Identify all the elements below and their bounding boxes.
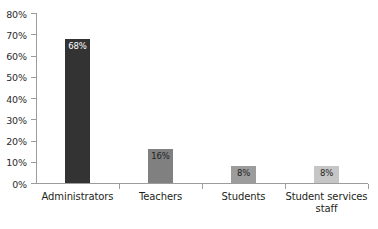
y-axis-tick: 60% (31, 56, 36, 57)
bar-value-label: 16% (148, 152, 173, 161)
bar: 8% (314, 166, 339, 183)
y-axis-tick-label: 50% (6, 72, 27, 83)
y-axis-tick-label: 40% (6, 93, 27, 104)
y-axis-tick-label: 60% (6, 51, 27, 62)
bar-value-label: 8% (231, 169, 256, 178)
y-axis-line (36, 13, 37, 183)
x-axis-tick (119, 184, 120, 189)
bar: 8% (231, 166, 256, 183)
bar-value-label: 68% (65, 42, 90, 51)
y-axis-tick: 20% (31, 141, 36, 142)
y-axis-tick-label: 80% (6, 8, 27, 19)
y-axis-tick-label: 10% (6, 157, 27, 168)
y-axis-tick-label: 20% (6, 136, 27, 147)
x-axis-tick (285, 184, 286, 189)
y-axis-tick: 40% (31, 98, 36, 99)
y-axis-tick: 70% (31, 34, 36, 35)
bar-value-label: 8% (314, 169, 339, 178)
x-axis-category-label: Student services staff (285, 191, 368, 214)
bar: 68% (65, 39, 90, 184)
x-axis-category-label: Administrators (36, 191, 119, 203)
x-axis-category-label: Teachers (119, 191, 202, 203)
bar: 16% (148, 149, 173, 183)
y-axis-tick-label: 30% (6, 114, 27, 125)
x-axis-tick (368, 184, 369, 189)
y-axis-tick: 10% (31, 162, 36, 163)
y-axis-tick: 30% (31, 119, 36, 120)
bar-chart: 80%70%60%50%40%30%20%10%0% 68%16%8%8% Ad… (0, 0, 378, 229)
y-axis-tick: 0% (31, 183, 36, 184)
x-axis-tick (202, 184, 203, 189)
y-axis-tick-label: 0% (12, 178, 27, 189)
y-axis-tick: 50% (31, 77, 36, 78)
y-axis-tick: 80% (31, 13, 36, 14)
x-axis-category-label: Students (202, 191, 285, 203)
y-axis-tick-label: 70% (6, 29, 27, 40)
